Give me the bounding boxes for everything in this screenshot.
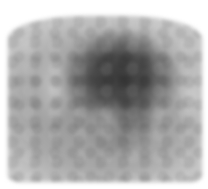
scan-texture <box>8 16 202 182</box>
